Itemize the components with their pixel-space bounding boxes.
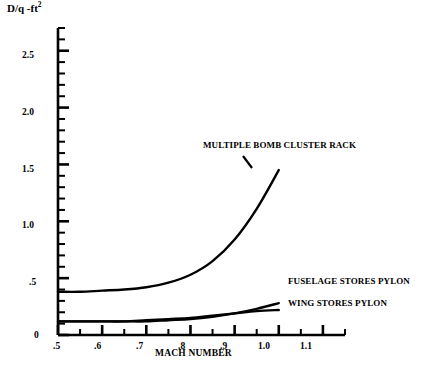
series-curve-wing-stores-pylon bbox=[58, 310, 279, 321]
axes bbox=[58, 28, 345, 335]
x-axis-ticks bbox=[58, 325, 345, 335]
annotation-leader-lines bbox=[243, 156, 252, 168]
data-curves bbox=[58, 170, 279, 321]
series-curve-multiple-bomb-cluster-rack bbox=[58, 170, 279, 292]
y-axis-ticks bbox=[58, 28, 69, 335]
chart-figure: D/q -ft2 MACH NUMBER 2.5 2.0 1.5 1.0 .5 … bbox=[0, 0, 423, 374]
plot-area bbox=[0, 0, 423, 374]
leader-line-multiple-bomb-cluster-rack bbox=[243, 156, 252, 168]
